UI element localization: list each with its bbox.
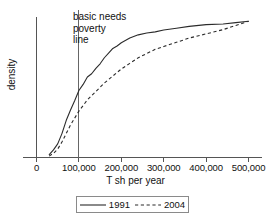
legend-entry-1991: 1991 (80, 199, 130, 210)
annotation-line-3: line (73, 34, 126, 46)
legend: 1991 2004 (76, 196, 189, 213)
poverty-line-annotation: basic needs poverty line (73, 11, 126, 46)
legend-label-1991: 1991 (109, 199, 130, 210)
plot-area (0, 0, 271, 219)
y-axis-label: density (6, 45, 17, 105)
annotation-line-2: poverty (73, 23, 126, 35)
x-axis-label: T sh per year (0, 175, 271, 186)
x-tick-label-3: 300,000 (147, 162, 181, 173)
legend-swatch-dashed (135, 201, 161, 209)
legend-swatch-solid (80, 201, 106, 209)
legend-label-2004: 2004 (164, 199, 185, 210)
x-tick-label-2: 200,000 (104, 162, 138, 173)
x-tick-label-4: 400,000 (189, 162, 223, 173)
x-tick-label-5: 500,000 (232, 162, 266, 173)
chart-figure: 0100,000200,000300,000400,000500,000 T s… (0, 0, 271, 219)
x-tick-label-1: 100,000 (62, 162, 96, 173)
chart-title (0, 0, 271, 6)
axes (23, 17, 262, 158)
x-tick-label-0: 0 (34, 162, 39, 173)
x-axis-ticks (37, 158, 249, 162)
annotation-line-1: basic needs (73, 11, 126, 23)
legend-entry-2004: 2004 (135, 199, 185, 210)
